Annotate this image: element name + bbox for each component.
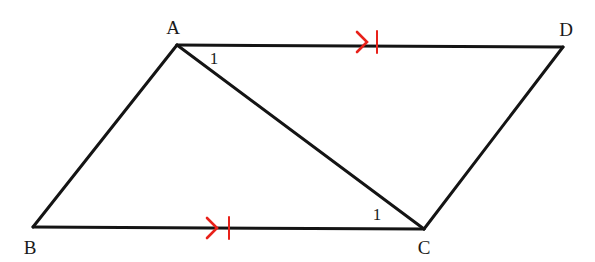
vertex-label-a: A (166, 18, 180, 37)
segment-ad (177, 45, 563, 47)
angle-label-1-at-a: 1 (210, 50, 219, 67)
geometry-figure: A D B C 1 1 (0, 0, 595, 262)
vertex-label-c: C (418, 238, 431, 257)
angle-label-1-at-c: 1 (373, 206, 382, 223)
figure-background (0, 0, 595, 262)
vertex-label-d: D (559, 20, 573, 39)
diagram-canvas (0, 0, 595, 262)
vertex-label-b: B (24, 238, 37, 257)
